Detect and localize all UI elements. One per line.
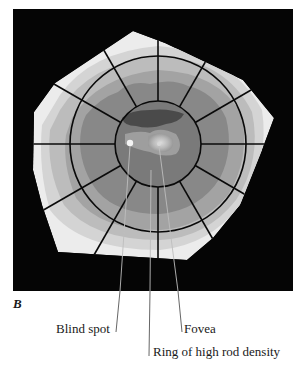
- retina-rod-density-figure: B Blind spot Fovea Ring of high rod dens…: [0, 0, 305, 366]
- retina-map-svg: [0, 0, 305, 366]
- blind-spot-marker: [127, 140, 133, 146]
- label-ring-of-high-rod-density: Ring of high rod density: [153, 345, 280, 358]
- label-fovea: Fovea: [184, 322, 216, 335]
- label-blind-spot: Blind spot: [56, 322, 110, 335]
- panel-letter: B: [13, 296, 22, 312]
- fovea-marker: [157, 142, 161, 146]
